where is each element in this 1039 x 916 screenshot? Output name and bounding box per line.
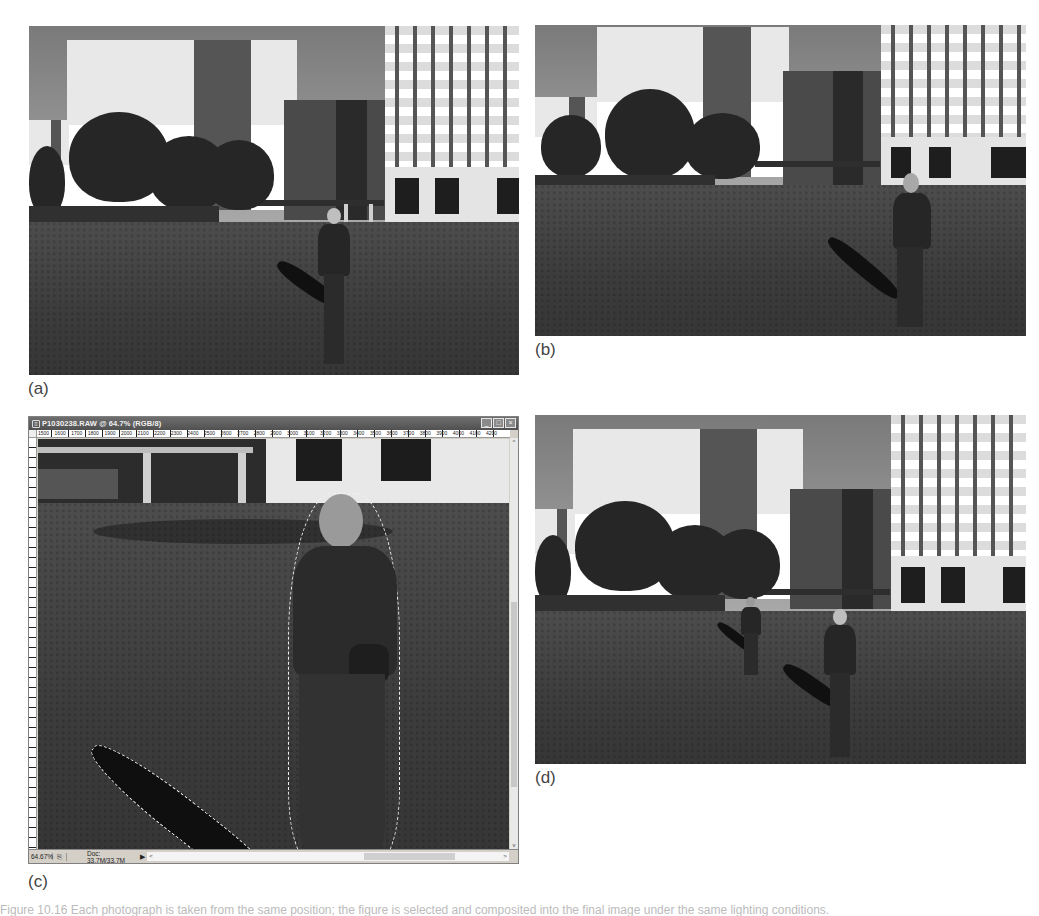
figure-caption: Figure 10.16 Each photograph is taken fr… [0, 903, 1039, 916]
zoom-level-field[interactable]: 64.67% [29, 853, 53, 860]
window-titlebar[interactable]: ≡ P1030238.RAW @ 64.7% (RGB/8) _ □ × [29, 417, 518, 430]
entrance-canopy [755, 161, 880, 167]
vertical-scrollbar[interactable]: ^ v [510, 438, 518, 849]
close-button[interactable]: × [505, 418, 516, 428]
photo-scene-b [535, 25, 1026, 336]
vertical-ruler[interactable] [29, 438, 37, 849]
tower-building [881, 25, 1026, 185]
selected-figure[interactable] [288, 493, 400, 849]
woman-walking-away [889, 173, 935, 329]
tower-window [296, 439, 342, 481]
minimize-button[interactable]: _ [481, 418, 492, 428]
lawn [535, 185, 1026, 336]
building-shaded-wing [783, 71, 883, 186]
tree [685, 113, 760, 179]
lawn [38, 503, 509, 849]
lawn [535, 611, 1026, 764]
panel-label-b: (b) [535, 340, 556, 360]
canopy-pillar [238, 453, 246, 505]
scroll-up-button[interactable]: ^ [510, 438, 518, 446]
woman-facing-camera [820, 609, 860, 759]
entrance-canopy [750, 589, 890, 595]
window-controls: _ □ × [481, 418, 516, 428]
preview-icon[interactable]: ⎘ [53, 853, 67, 861]
panel-label-a: (a) [28, 379, 49, 399]
tower-window [381, 439, 431, 481]
tower-building [385, 26, 519, 222]
composited-woman-walking-away [739, 597, 763, 677]
lawn [29, 222, 519, 375]
canopy-pillar [143, 453, 151, 505]
document-size-info: Doc: 33.7M/33.7M [67, 850, 137, 864]
vertical-scroll-thumb[interactable] [511, 602, 517, 787]
photo-panel-d [535, 415, 1026, 764]
photo-panel-a [29, 26, 519, 375]
tree [710, 529, 780, 599]
status-bar: 64.67% ⎘ Doc: 33.7M/33.7M ▶ < > [29, 849, 518, 863]
window-title: P1030238.RAW @ 64.7% (RGB/8) [42, 419, 161, 428]
scroll-right-button[interactable]: > [501, 852, 509, 861]
horizontal-ruler[interactable]: 1500160017001800190020002100220023002400… [37, 430, 510, 438]
maximize-button[interactable]: □ [493, 418, 504, 428]
horizontal-scrollbar[interactable]: < > [147, 852, 509, 861]
horizontal-scroll-thumb[interactable] [364, 853, 455, 860]
document-icon: ≡ [32, 420, 40, 428]
photoshop-document-window: ≡ P1030238.RAW @ 64.7% (RGB/8) _ □ × 150… [28, 416, 519, 864]
tree [541, 115, 601, 177]
scroll-left-button[interactable]: < [147, 852, 155, 861]
scroll-down-button[interactable]: v [510, 841, 518, 849]
panel-label-c: (c) [28, 872, 48, 892]
status-menu-arrow-icon[interactable]: ▶ [137, 853, 147, 861]
tree [605, 89, 695, 179]
document-canvas[interactable] [38, 439, 509, 849]
photo-scene-d [535, 415, 1026, 764]
canopy-pillar [369, 204, 373, 222]
photo-scene-a [29, 26, 519, 375]
tree [204, 140, 274, 210]
tower-building [891, 415, 1026, 611]
entrance-canopy [244, 200, 384, 206]
panel-label-d: (d) [535, 768, 556, 788]
ruler-origin[interactable] [29, 430, 37, 438]
photo-panel-b [535, 25, 1026, 336]
woman-facing-camera [314, 208, 354, 368]
vehicles-strip [38, 469, 118, 499]
